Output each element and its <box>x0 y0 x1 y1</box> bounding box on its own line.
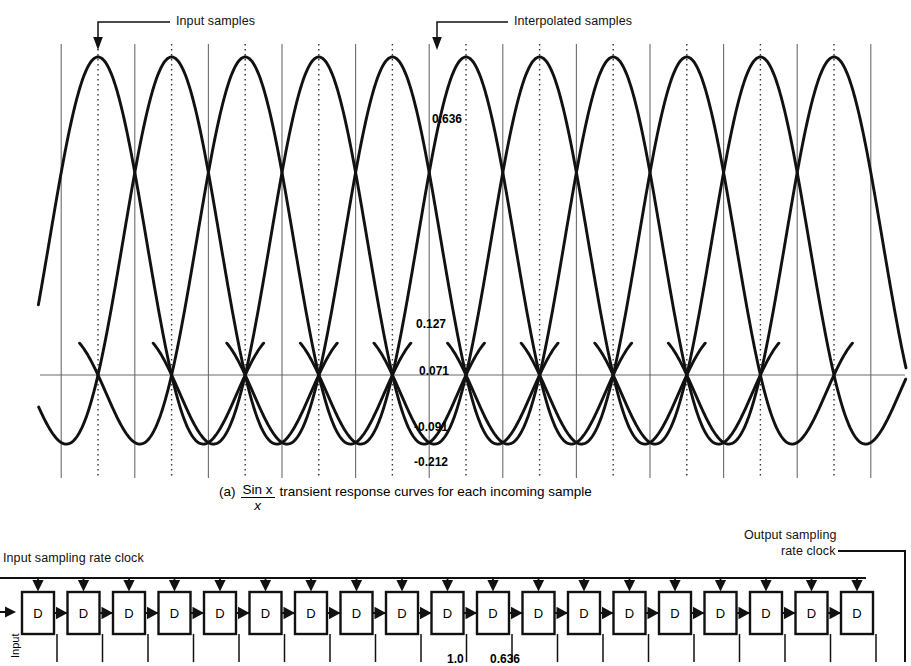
clock-arrow-icon <box>851 580 862 592</box>
stage-arrow-icon <box>147 607 159 619</box>
stage-arrow-icon <box>693 607 705 619</box>
signal-input-arrow <box>0 607 16 618</box>
stage-arrow-icon <box>602 607 614 619</box>
signal-input-side-label: Input <box>9 634 21 658</box>
stage-arrow-icon <box>557 607 569 619</box>
clock-arrow-icon <box>123 580 134 592</box>
sinc-curve-group <box>38 57 906 444</box>
stage-arrow-icon <box>375 607 387 619</box>
stage-arrow-icon <box>238 607 250 619</box>
interpolated-samples-callout <box>432 22 508 50</box>
shift-register-diagram <box>0 500 911 662</box>
stage-arrow-icon <box>784 607 796 619</box>
annotation-interpolated-samples: Interpolated samples <box>514 14 632 28</box>
stage-arrow-icon <box>102 607 114 619</box>
clock-arrow-icon <box>351 580 362 592</box>
clock-arrow-icon <box>32 580 43 592</box>
d-register-label: D <box>705 592 737 634</box>
clock-arrow-icon <box>624 580 635 592</box>
sinc-response-chart <box>0 0 911 500</box>
d-register-label: D <box>614 592 646 634</box>
clock-arrow-icon <box>533 580 544 592</box>
d-register-label: D <box>386 592 418 634</box>
value-label-neg0212: -0.212 <box>414 455 448 469</box>
d-register-label: D <box>841 592 873 634</box>
caption-text: transient response curves for each incom… <box>280 484 592 499</box>
clock-arrow-icon <box>305 580 316 592</box>
clock-arrow-group <box>32 578 862 592</box>
clock-arrow-icon <box>442 580 453 592</box>
clock-arrow-icon <box>214 580 225 592</box>
d-register-label: D <box>68 592 100 634</box>
clock-arrow-icon <box>169 580 180 592</box>
clock-arrow-icon <box>260 580 271 592</box>
stage-arrow-icon <box>466 607 478 619</box>
bottom-value-2: 0.636 <box>490 652 520 666</box>
d-register-label: D <box>341 592 373 634</box>
caption-numerator: Sin x <box>241 483 275 498</box>
d-register-label: D <box>477 592 509 634</box>
stage-arrow-icon <box>830 607 842 619</box>
value-label-0636: 0.636 <box>432 112 462 126</box>
clock-arrow-icon <box>715 580 726 592</box>
d-register-label: D <box>113 592 145 634</box>
stage-arrow-icon <box>739 607 751 619</box>
d-register-label: D <box>750 592 782 634</box>
stage-arrow-icon <box>511 607 523 619</box>
d-register-label: D <box>659 592 691 634</box>
tap-line-group <box>57 634 876 662</box>
input-sampling-clock-label: Input sampling rate clock <box>3 551 144 565</box>
stage-arrow-icon <box>648 607 660 619</box>
d-register-label: D <box>568 592 600 634</box>
annotation-input-samples: Input samples <box>176 14 255 28</box>
d-register-label: D <box>22 592 54 634</box>
stage-arrow-icon <box>193 607 205 619</box>
caption-index: (a) <box>219 484 236 499</box>
d-register-label: D <box>432 592 464 634</box>
output-sampling-clock-label-line1: Output sampling <box>744 528 837 542</box>
clock-arrow-icon <box>78 580 89 592</box>
value-label-neg0091: -0.091 <box>414 420 448 434</box>
stage-arrow-icon <box>329 607 341 619</box>
clock-arrow-icon <box>578 580 589 592</box>
d-register-label: D <box>204 592 236 634</box>
bottom-value-1: 1.0 <box>447 652 464 666</box>
value-label-0127: 0.127 <box>416 317 446 331</box>
input-samples-callout <box>93 22 170 50</box>
stage-arrow-icon <box>420 607 432 619</box>
d-register-label: D <box>159 592 191 634</box>
stage-arrow-icon <box>284 607 296 619</box>
clock-arrow-icon <box>396 580 407 592</box>
d-register-label: D <box>796 592 828 634</box>
clock-arrow-icon <box>806 580 817 592</box>
clock-arrow-icon <box>487 580 498 592</box>
value-label-0071: 0.071 <box>419 364 449 378</box>
d-register-label: D <box>250 592 282 634</box>
output-sampling-clock-label-line2: rate clock <box>781 544 836 558</box>
sinc-curve <box>38 57 263 444</box>
d-register-label: D <box>523 592 555 634</box>
clock-arrow-icon <box>669 580 680 592</box>
d-register-label: D <box>295 592 327 634</box>
stage-arrow-icon <box>56 607 68 619</box>
clock-arrow-icon <box>760 580 771 592</box>
